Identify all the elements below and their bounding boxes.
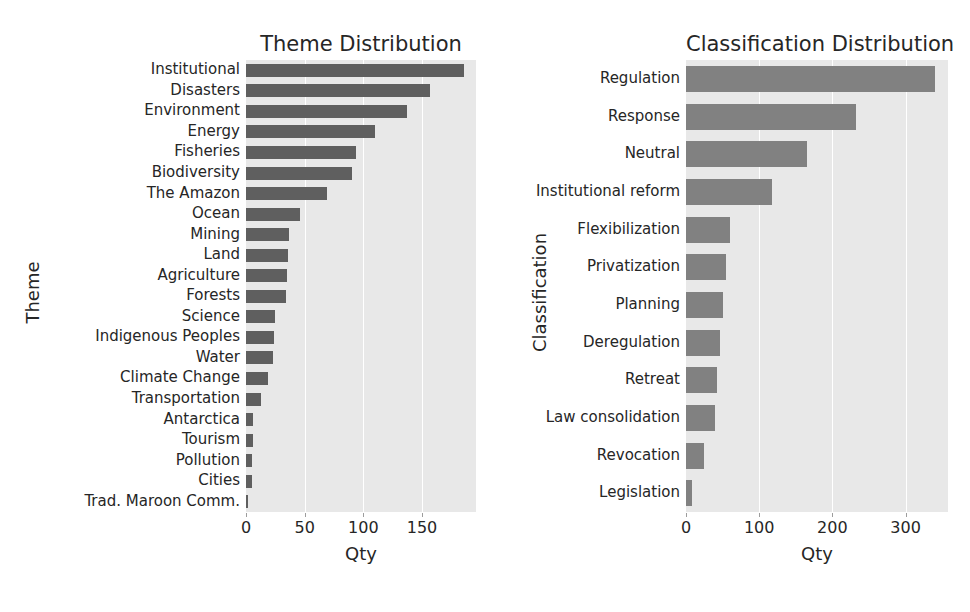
bar (686, 480, 692, 506)
y-axis-tick-labels-classification: RegulationResponseNeutralInstitutional r… (485, 60, 680, 512)
y-tick-label: Ocean (192, 206, 240, 221)
x-tick-label: 100 (744, 518, 775, 537)
bar (246, 64, 464, 77)
y-tick-label: Regulation (600, 71, 680, 86)
y-tick-label: Trad. Maroon Comm. (84, 494, 240, 509)
y-tick-label: Antarctica (164, 412, 240, 427)
y-tick-label: Tourism (182, 432, 240, 447)
x-tick-mark (832, 513, 833, 517)
panel-theme-distribution: Theme Distribution InstitutionalDisaster… (0, 0, 485, 612)
bar (686, 217, 730, 243)
bar (246, 146, 356, 159)
bar (686, 405, 715, 431)
bar (246, 105, 407, 118)
y-tick-label: Legislation (599, 485, 680, 500)
bar (686, 66, 935, 92)
bar (246, 187, 327, 200)
x-axis-label-classification: Qty (686, 543, 948, 564)
y-tick-label: Planning (615, 297, 680, 312)
bar (246, 454, 252, 467)
y-tick-label: Retreat (625, 372, 680, 387)
y-tick-label: Indigenous Peoples (95, 329, 240, 344)
x-tick-label: 300 (890, 518, 921, 537)
y-tick-label: Cities (198, 473, 240, 488)
bar (686, 179, 772, 205)
bar (686, 292, 723, 318)
x-tick-mark (246, 513, 247, 517)
y-tick-label: Energy (187, 124, 240, 139)
figure-two-bar-charts: Theme Distribution InstitutionalDisaster… (0, 0, 970, 612)
panel-classification-distribution: Classification Distribution RegulationRe… (485, 0, 970, 612)
x-axis-tick-labels-theme: 050100150 (246, 518, 476, 540)
y-axis-label-theme: Theme (22, 233, 43, 353)
y-tick-label: Flexibilization (577, 222, 680, 237)
x-tick-label: 0 (241, 518, 251, 537)
bar (686, 254, 726, 280)
y-tick-label: Privatization (587, 259, 680, 274)
bar (246, 372, 268, 385)
y-tick-label: Institutional (151, 62, 240, 77)
bar (246, 310, 275, 323)
y-tick-label: The Amazon (147, 186, 240, 201)
y-tick-label: Response (608, 109, 680, 124)
x-axis-tick-labels-classification: 0100200300 (686, 518, 948, 540)
y-tick-label: Environment (144, 103, 240, 118)
bar (246, 413, 253, 426)
y-tick-label: Biodiversity (152, 165, 240, 180)
x-tick-label: 100 (348, 518, 379, 537)
y-tick-label: Land (203, 247, 240, 262)
y-tick-label: Neutral (625, 146, 680, 161)
bar (246, 208, 300, 221)
y-tick-label: Water (196, 350, 240, 365)
bar (246, 167, 352, 180)
x-tick-label: 0 (681, 518, 691, 537)
bar (246, 84, 430, 97)
bar (246, 290, 286, 303)
y-tick-label: Disasters (170, 83, 240, 98)
plot-area-theme (246, 60, 476, 512)
x-tick-mark (759, 513, 760, 517)
x-tick-label: 200 (817, 518, 848, 537)
bar (686, 141, 807, 167)
y-tick-label: Agriculture (158, 268, 241, 283)
bar (686, 330, 720, 356)
y-tick-label: Climate Change (120, 370, 240, 385)
x-tick-mark (363, 513, 364, 517)
x-axis-label-theme: Qty (246, 543, 476, 564)
y-tick-label: Law consolidation (546, 410, 680, 425)
gridline (422, 60, 423, 512)
x-tick-mark (305, 513, 306, 517)
bar (246, 269, 287, 282)
bar (246, 228, 289, 241)
y-tick-label: Fisheries (174, 144, 240, 159)
bar (246, 331, 274, 344)
bar (686, 104, 856, 130)
y-tick-label: Revocation (597, 448, 680, 463)
x-tick-mark (686, 513, 687, 517)
bar (246, 495, 248, 508)
y-tick-label: Deregulation (583, 335, 680, 350)
x-tick-mark (422, 513, 423, 517)
bar (686, 443, 704, 469)
y-tick-label: Mining (190, 227, 240, 242)
bar (246, 434, 253, 447)
plot-area-classification (686, 60, 948, 512)
y-tick-label: Pollution (176, 453, 240, 468)
bar (246, 393, 261, 406)
x-tick-label: 150 (407, 518, 438, 537)
bar (246, 475, 252, 488)
bar (246, 249, 288, 262)
bar (686, 367, 717, 393)
bar (246, 351, 273, 364)
chart-title-classification: Classification Distribution (686, 32, 948, 56)
chart-title-theme: Theme Distribution (246, 32, 476, 56)
x-tick-mark (906, 513, 907, 517)
y-axis-label-classification: Classification (529, 213, 550, 373)
x-tick-label: 50 (294, 518, 314, 537)
y-tick-label: Transportation (132, 391, 240, 406)
y-tick-label: Institutional reform (536, 184, 680, 199)
y-tick-label: Science (182, 309, 240, 324)
y-tick-label: Forests (186, 288, 240, 303)
gridline (906, 60, 907, 512)
bar (246, 125, 375, 138)
